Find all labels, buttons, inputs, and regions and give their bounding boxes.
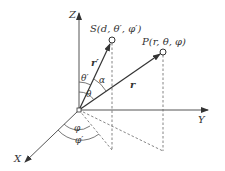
z-axis-label: Z	[68, 9, 77, 20]
theta-label: θ	[86, 89, 92, 99]
y-axis-label: Y	[198, 114, 206, 125]
r-prime-label: r′	[91, 57, 99, 68]
phi-label: φ	[74, 123, 81, 133]
x-axis-label: X	[13, 153, 22, 164]
observer-point-p	[160, 49, 166, 55]
phi-prime-label: φ′	[75, 135, 83, 145]
s-ground-projection	[79, 110, 112, 150]
x-axis	[25, 110, 79, 162]
p-ground-projection	[79, 110, 163, 151]
alpha-label: α	[99, 75, 105, 85]
theta-prime-label: θ′	[81, 73, 88, 83]
observer-point-label: P(r, θ, φ)	[141, 36, 186, 47]
spherical-coordinates-diagram: Z Y X r′ r S(d, θ′, φ′) P(r, θ, φ) θ′ θ …	[0, 0, 225, 171]
origin-marker	[77, 108, 81, 112]
r-label: r	[130, 79, 136, 90]
source-point-label: S(d, θ′, φ′)	[90, 23, 141, 34]
source-point-s	[109, 37, 115, 43]
